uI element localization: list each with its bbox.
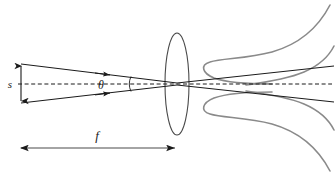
beam-envelope-curve-upper-right xyxy=(246,46,334,85)
label-focal-length: f xyxy=(95,128,101,143)
outgoing-ray-lower xyxy=(177,85,334,102)
figure-canvas: s θ f xyxy=(0,0,336,176)
beam-envelope-curve-lower-left xyxy=(204,92,330,171)
ray-direction-arrow-upper xyxy=(95,73,110,75)
label-half-angle: θ xyxy=(98,78,104,92)
beam-envelope-group xyxy=(204,5,334,171)
beam-envelope-curve-upper-left xyxy=(204,5,330,84)
optics-figure: s θ f xyxy=(0,0,336,176)
label-beam-size: s xyxy=(8,78,12,90)
outgoing-ray-upper xyxy=(177,66,334,83)
